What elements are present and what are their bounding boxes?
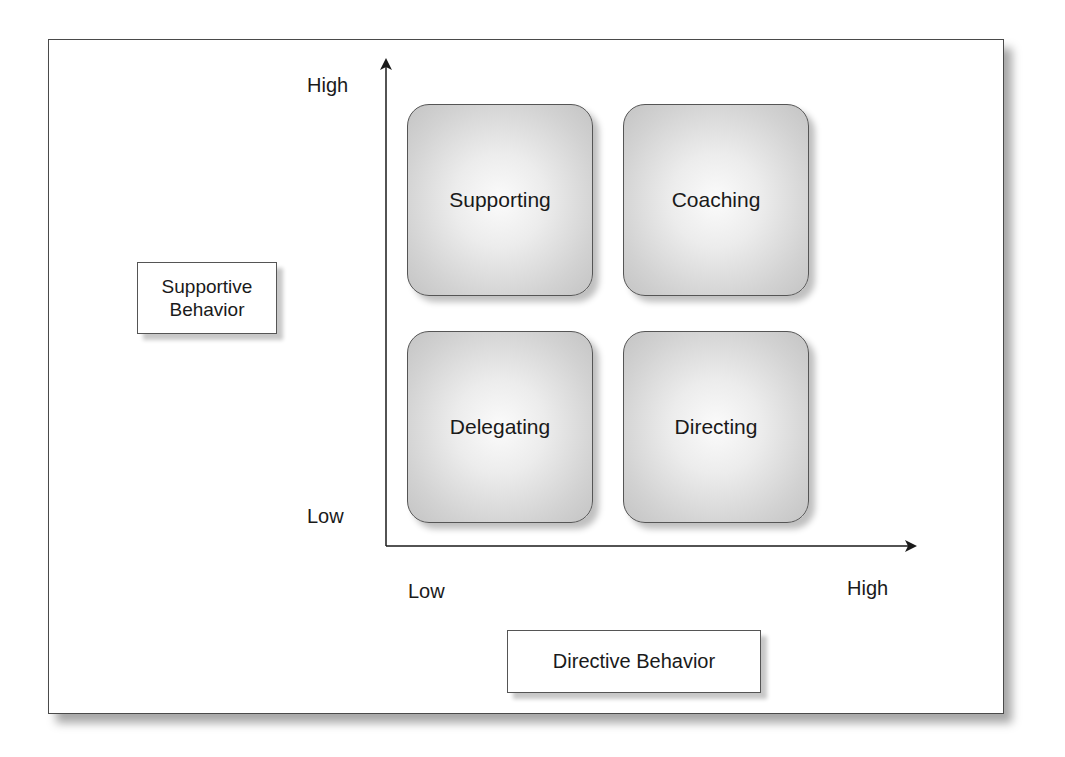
x-axis-title: Directive Behavior xyxy=(553,650,715,673)
quadrant-label: Coaching xyxy=(672,188,761,212)
x-axis-title-box: Directive Behavior xyxy=(507,630,761,693)
quadrant-label: Supporting xyxy=(449,188,551,212)
y-axis-title-box: Supportive Behavior xyxy=(137,262,277,334)
y-axis-high-label: High xyxy=(307,74,348,97)
y-axis-title-line2: Behavior xyxy=(170,298,245,321)
x-axis-low-label: Low xyxy=(408,580,445,603)
quadrant-directing: Directing xyxy=(623,331,809,523)
y-axis-low-label: Low xyxy=(307,505,344,528)
quadrant-supporting: Supporting xyxy=(407,104,593,296)
quadrant-label: Directing xyxy=(675,415,758,439)
quadrant-coaching: Coaching xyxy=(623,104,809,296)
quadrant-label: Delegating xyxy=(450,415,550,439)
y-axis-title-line1: Supportive xyxy=(162,275,253,298)
x-axis-high-label: High xyxy=(847,577,888,600)
quadrant-delegating: Delegating xyxy=(407,331,593,523)
